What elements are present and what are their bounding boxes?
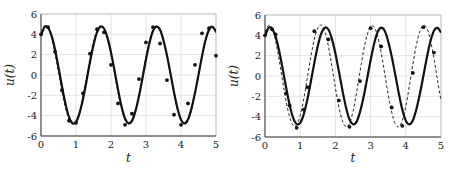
data-point <box>263 33 267 37</box>
y-tick-label: 6 <box>255 10 261 21</box>
data-point <box>123 123 127 127</box>
y-tick-label: 2 <box>255 50 261 61</box>
data-point <box>116 102 120 106</box>
data-point <box>358 79 362 83</box>
x-tick-label: 5 <box>438 140 444 151</box>
data-point <box>379 45 383 49</box>
data-point <box>95 27 99 31</box>
data-point <box>422 25 426 29</box>
data-point <box>74 121 78 125</box>
data-point <box>200 31 204 35</box>
x-tick-label: 4 <box>178 139 184 150</box>
data-point <box>102 30 106 34</box>
y-tick-label: 2 <box>31 49 37 60</box>
x-tick-label: 5 <box>213 139 219 150</box>
data-point <box>326 38 330 42</box>
data-point <box>214 54 218 58</box>
data-point <box>288 104 292 108</box>
data-point <box>432 51 436 55</box>
data-point <box>172 113 176 117</box>
x-tick-label: 2 <box>332 140 338 151</box>
x-tick-label: 0 <box>262 140 268 151</box>
data-point <box>274 32 278 36</box>
x-tick-label: 1 <box>297 140 303 151</box>
x-tick-label: 2 <box>108 139 114 150</box>
y-tick-label: -2 <box>27 90 37 101</box>
data-point <box>295 126 299 130</box>
data-point <box>302 108 306 112</box>
y-tick-label: 6 <box>31 9 37 20</box>
y-axis-label: u(t) <box>227 65 241 87</box>
data-point <box>151 25 155 29</box>
data-point <box>337 99 341 103</box>
data-point <box>109 63 113 67</box>
data-point <box>130 112 134 116</box>
data-point <box>137 77 141 81</box>
y-tick-label: -2 <box>251 91 261 102</box>
data-point <box>144 41 148 45</box>
x-tick-label: 0 <box>38 139 44 150</box>
y-axis-label: u(t) <box>3 64 17 86</box>
x-tick-label: 1 <box>73 139 79 150</box>
data-point <box>193 63 197 67</box>
data-point <box>165 78 169 82</box>
y-tick-label: 0 <box>31 70 37 81</box>
left-plot: 012345-6-4-20246tu(t) <box>3 9 219 166</box>
data-point <box>67 119 71 123</box>
data-point <box>88 52 92 56</box>
figure: 012345-6-4-20246tu(t) 012345-6-4-20246tu… <box>0 0 455 172</box>
data-point <box>207 26 211 30</box>
x-tick-label: 3 <box>367 140 373 151</box>
data-point <box>284 91 288 95</box>
data-point <box>53 50 57 54</box>
data-point <box>270 27 274 31</box>
y-tick-label: 4 <box>255 30 261 41</box>
data-point <box>46 25 50 29</box>
data-point <box>390 106 394 110</box>
data-point <box>81 91 85 95</box>
data-point <box>411 71 415 75</box>
x-axis-label: t <box>351 151 356 165</box>
data-point <box>158 42 162 46</box>
data-point <box>305 85 309 89</box>
x-tick-label: 3 <box>143 139 149 150</box>
x-axis-label: t <box>126 151 131 165</box>
x-tick-label: 4 <box>403 140 409 151</box>
y-tick-label: 4 <box>31 29 37 40</box>
data-point <box>312 29 316 33</box>
data-point <box>179 123 183 127</box>
y-tick-label: -4 <box>251 111 261 122</box>
y-tick-label: -6 <box>251 132 261 143</box>
data-point <box>39 32 43 36</box>
y-tick-label: -6 <box>27 131 37 142</box>
y-tick-label: 0 <box>255 71 261 82</box>
data-point <box>348 125 352 129</box>
data-point <box>186 102 190 106</box>
data-point <box>369 26 373 30</box>
y-tick-label: -4 <box>27 110 37 121</box>
right-plot: 012345-6-4-20246tu(t) <box>227 10 444 166</box>
data-point <box>400 124 404 128</box>
data-point <box>60 88 64 92</box>
